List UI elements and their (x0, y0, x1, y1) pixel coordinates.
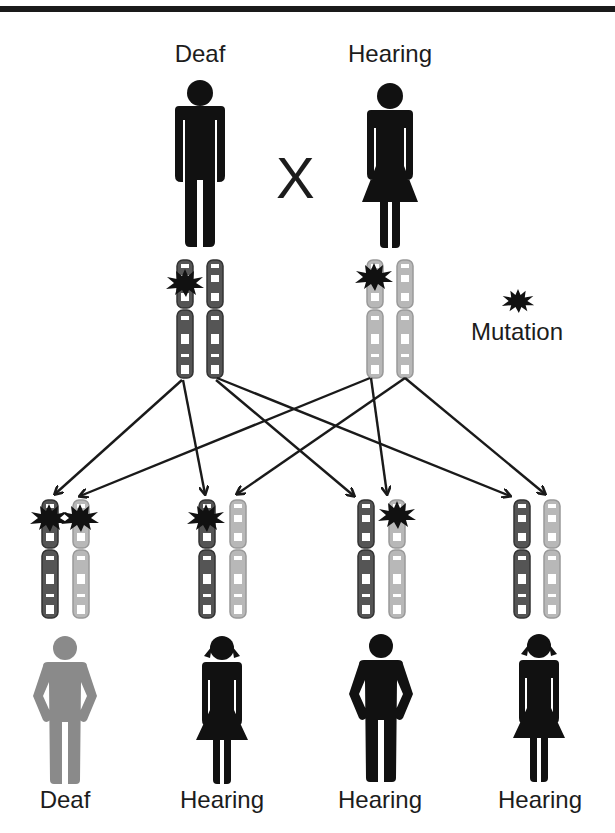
father-label: Deaf (160, 40, 240, 68)
arrow (80, 378, 370, 496)
mutation-icon (166, 269, 204, 297)
child-4-label: Hearing (490, 786, 590, 814)
inheritance-arrows (55, 378, 545, 496)
child-1-chromosomes (30, 500, 99, 618)
child-2-figure (196, 636, 248, 784)
arrow (55, 380, 182, 494)
child-4-figure (513, 634, 565, 782)
mother-figure (362, 83, 418, 248)
child-1-label: Deaf (20, 786, 110, 814)
cross-symbol: X (276, 144, 315, 211)
child-1-figure (33, 636, 97, 784)
father-figure (175, 80, 225, 247)
father-chromosome-2 (207, 260, 223, 378)
child-3-chromosomes (358, 500, 416, 618)
arrow (183, 380, 205, 494)
mutation-icon (355, 263, 393, 291)
child-3-figure (349, 634, 413, 782)
child-3-label: Hearing (330, 786, 430, 814)
arrow (216, 380, 354, 496)
mutation-legend-label: Mutation (462, 318, 572, 346)
arrow (405, 378, 545, 494)
child-2-label: Hearing (172, 786, 272, 814)
pedigree-diagram (0, 0, 615, 833)
mother-label: Hearing (340, 40, 440, 68)
child-2-chromosomes (187, 500, 246, 618)
mutation-legend-icon (502, 289, 534, 313)
mother-chromosome-2 (397, 260, 413, 378)
child-4-chromosomes (514, 500, 560, 618)
